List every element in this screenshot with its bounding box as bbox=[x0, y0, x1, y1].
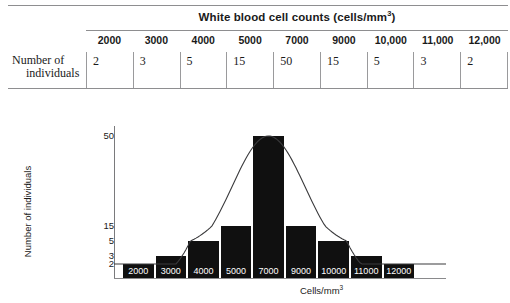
table-header-rule bbox=[86, 30, 508, 31]
table-bottom-rule bbox=[8, 88, 508, 89]
y-axis-tick-label: 5 bbox=[88, 235, 114, 246]
histogram-chart: Number of individuals 50 15 5 3 2 2000 3… bbox=[0, 118, 510, 303]
table-cell: 50 bbox=[273, 52, 320, 88]
column-header: 7000 bbox=[274, 34, 321, 50]
x-axis-title-superscript: 3 bbox=[340, 284, 344, 291]
column-header: 5000 bbox=[227, 34, 274, 50]
y-axis-tick-label: 50 bbox=[88, 130, 114, 141]
x-axis-line bbox=[114, 278, 446, 279]
x-axis-title-text: Cells/mm bbox=[300, 285, 340, 296]
column-header: 12,000 bbox=[461, 34, 508, 50]
table-cell: 2 bbox=[460, 52, 508, 88]
y-axis-tick-label: 15 bbox=[88, 220, 114, 231]
column-header: 2000 bbox=[86, 34, 133, 50]
table-cell: 5 bbox=[367, 52, 414, 88]
table-group-header-tail: ) bbox=[391, 11, 395, 23]
table-cell: 3 bbox=[133, 52, 180, 88]
table-row-label-line2: individuals bbox=[12, 67, 82, 80]
column-header: 3000 bbox=[133, 34, 180, 50]
table-row-label: Number of individuals bbox=[12, 54, 82, 80]
x-axis-title: Cells/mm3 bbox=[300, 284, 343, 296]
data-table: White blood cell counts (cells/mm3) 2000… bbox=[0, 0, 510, 95]
table-cell: 5 bbox=[180, 52, 227, 88]
column-header: 4000 bbox=[180, 34, 227, 50]
table-row: 2 3 5 15 50 15 5 3 2 bbox=[86, 52, 508, 88]
table-cell: 15 bbox=[226, 52, 273, 88]
table-group-header: White blood cell counts (cells/mm3) bbox=[86, 9, 508, 23]
y-axis-title: Number of individuals bbox=[22, 137, 33, 287]
table-top-rule bbox=[8, 5, 508, 6]
distribution-curve bbox=[114, 126, 446, 278]
column-header: 9000 bbox=[320, 34, 367, 50]
column-header: 11,000 bbox=[414, 34, 461, 50]
y-axis-tick-label: 2 bbox=[88, 258, 114, 269]
table-column-headers: 2000 3000 4000 5000 7000 9000 10,000 11,… bbox=[86, 34, 508, 50]
table-cell: 2 bbox=[86, 52, 133, 88]
table-cell: 3 bbox=[413, 52, 460, 88]
table-group-header-text: White blood cell counts (cells/mm bbox=[199, 11, 388, 23]
table-cell: 15 bbox=[320, 52, 367, 88]
table-row-label-line1: Number of bbox=[12, 53, 64, 67]
plot-area: 2000 3000 4000 5000 7000 9000 10000 1100… bbox=[122, 126, 415, 278]
column-header: 10,000 bbox=[367, 34, 414, 50]
